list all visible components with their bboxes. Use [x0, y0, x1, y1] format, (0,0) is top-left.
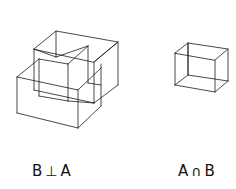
- difference-solid-wireframe: [17, 31, 118, 128]
- intersection-solid-wireframe: [175, 43, 228, 92]
- caption-intersection-right-operand: B: [205, 162, 216, 180]
- figure-canvas: [0, 0, 236, 189]
- caption-difference-left-operand: B: [32, 162, 43, 180]
- caption-difference-right-operand: A: [61, 162, 72, 180]
- caption-intersection: A∩B: [178, 164, 216, 179]
- set-difference-operator-icon: ⊥: [43, 164, 60, 178]
- caption-intersection-left-operand: A: [178, 162, 189, 180]
- set-intersection-operator-icon: ∩: [189, 164, 204, 178]
- caption-difference: B⊥A: [32, 164, 72, 179]
